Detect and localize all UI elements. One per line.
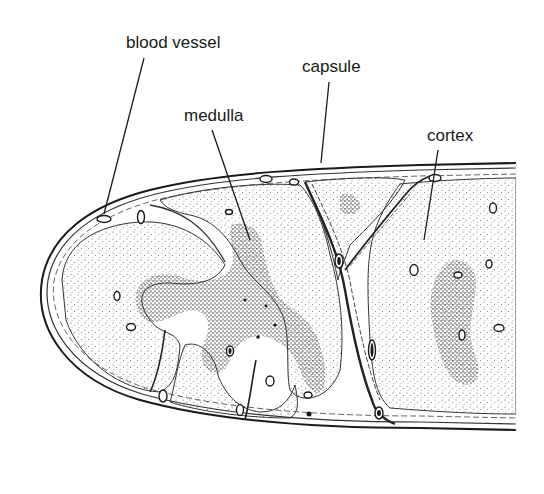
label-capsule: capsule <box>302 58 361 75</box>
label-blood-vessel: blood vessel <box>126 34 221 51</box>
leader-capsule <box>321 82 329 163</box>
organ-cross-section-diagram <box>0 0 544 494</box>
label-medulla: medulla <box>184 107 244 124</box>
organ-body <box>41 163 516 430</box>
leader-blood-vessel <box>104 58 144 214</box>
label-cortex: cortex <box>427 127 473 144</box>
